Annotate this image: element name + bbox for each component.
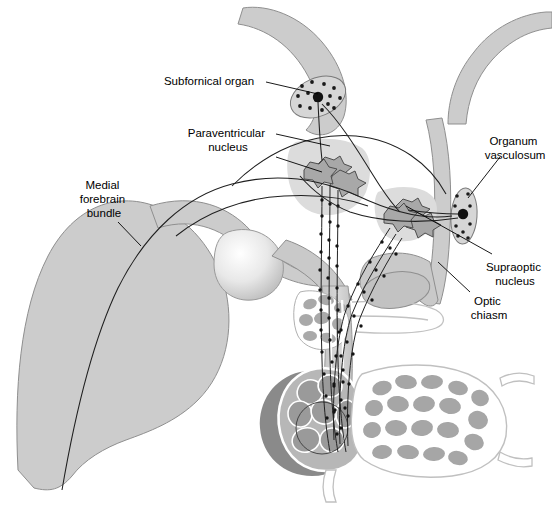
label-paraventricular-nucleus: Paraventricular nucleus <box>188 127 269 153</box>
label-supraoptic-nucleus: Supraoptic nucleus <box>486 261 544 287</box>
thalamus-bulge <box>214 230 283 301</box>
corpus-callosum-band <box>238 7 346 135</box>
lamina-terminalis-band <box>448 12 552 124</box>
organum-vasculosum-body <box>449 187 479 245</box>
hypothalamo-hypophyseal-diagram: Subfornical organ Paraventricular nucleu… <box>0 0 552 511</box>
organum-vasculosum-neuron <box>458 209 468 219</box>
forebrain-mass <box>17 201 229 490</box>
label-organum-vasculosum: Organum vasculosum <box>485 135 546 161</box>
label-optic-chiasm: Optic chiasm <box>471 295 507 321</box>
leader-organum-vasculosum <box>468 157 500 198</box>
label-medial-forebrain-bundle: Medial forebrain bundle <box>80 179 129 219</box>
label-subfornical-organ: Subfornical organ <box>164 75 254 87</box>
supraoptic-nucleus-body <box>375 187 441 241</box>
